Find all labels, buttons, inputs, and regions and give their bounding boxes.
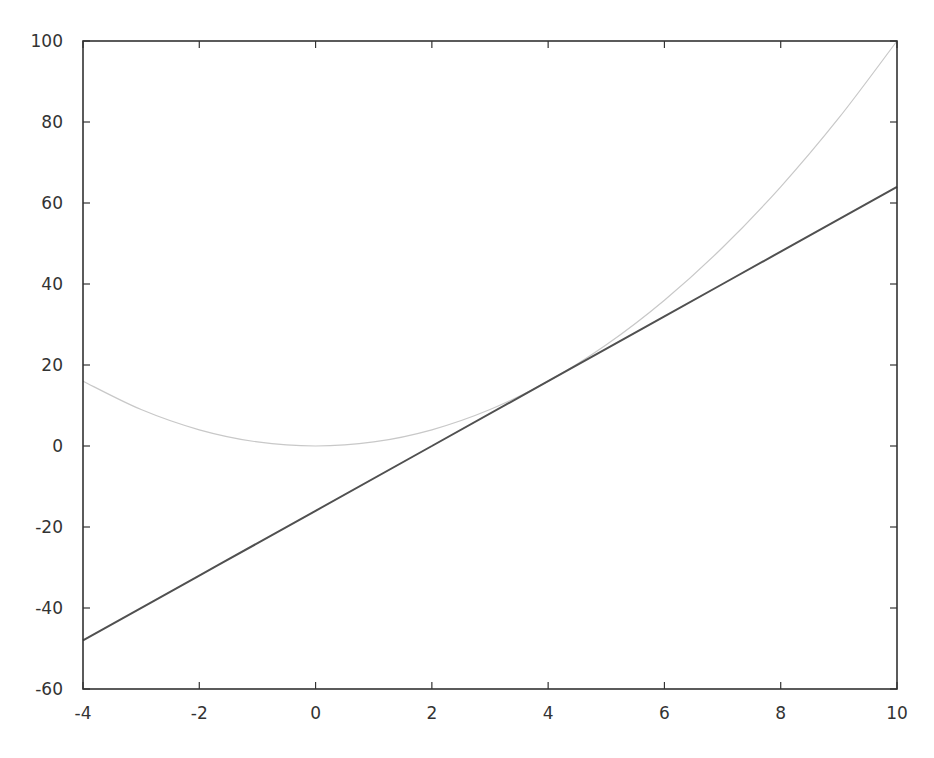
chart: -4-20246810 -60-40-20020406080100: [0, 0, 934, 758]
y-tick-label: 80: [41, 112, 63, 132]
y-tick-label: 60: [41, 193, 63, 213]
tangent-line-series: [83, 187, 897, 641]
x-tick-label: 4: [543, 703, 554, 723]
y-tick-label: 20: [41, 355, 63, 375]
y-tick-label: -20: [35, 517, 63, 537]
y-tick-label: -60: [35, 679, 63, 699]
y-tick-label: 100: [31, 31, 63, 51]
x-tick-label: 6: [659, 703, 670, 723]
x-tick-label: 0: [310, 703, 321, 723]
x-tick-label: -2: [191, 703, 208, 723]
y-axis: -60-40-20020406080100: [31, 31, 897, 699]
y-tick-label: 0: [52, 436, 63, 456]
plot-frame: [83, 41, 897, 689]
y-tick-label: 40: [41, 274, 63, 294]
parabola-series: [83, 41, 897, 446]
x-axis: -4-20246810: [75, 41, 908, 723]
x-tick-label: 2: [426, 703, 437, 723]
plot-curves: [83, 41, 897, 640]
x-tick-label: -4: [75, 703, 92, 723]
y-tick-label: -40: [35, 598, 63, 618]
x-tick-label: 10: [886, 703, 908, 723]
x-tick-label: 8: [775, 703, 786, 723]
